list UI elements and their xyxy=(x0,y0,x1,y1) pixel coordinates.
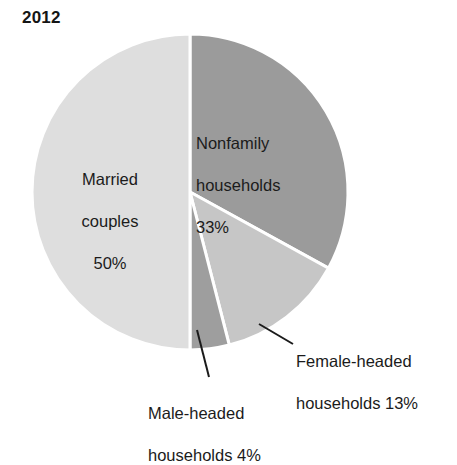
pie-label-female-headed-households-line1: Female-headed xyxy=(296,351,456,372)
pie-label-nonfamily-households-line2: households xyxy=(196,175,336,196)
pie-label-married-couples-line2: couples xyxy=(48,211,172,232)
pie-label-male-headed-households-line1: Male-headed xyxy=(148,403,328,424)
pie-label-male-headed-households-line2: households 4% xyxy=(148,445,328,465)
pie-label-married-couples-value: 50% xyxy=(48,253,172,274)
pie-label-nonfamily-households: Nonfamily households 33% xyxy=(196,112,336,259)
pie-label-married-couples: Married couples 50% xyxy=(48,148,172,295)
pie-label-nonfamily-households-value: 33% xyxy=(196,217,336,238)
pie-label-male-headed-households: Male-headed households 4% xyxy=(148,382,328,465)
pie-label-married-couples-line1: Married xyxy=(48,169,172,190)
leader-line-female-headed xyxy=(259,324,293,344)
pie-label-nonfamily-households-line1: Nonfamily xyxy=(196,133,336,154)
